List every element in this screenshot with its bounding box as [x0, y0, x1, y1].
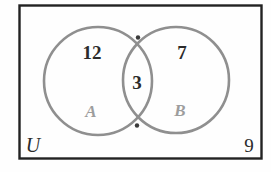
- venn-diagram-figure: 12 3 7 A B U 9: [0, 0, 271, 172]
- intersection-point-bottom: [135, 123, 139, 127]
- intersection-count: 3: [132, 73, 142, 92]
- set-a-only-count: 12: [83, 43, 102, 62]
- set-b-only-count: 7: [177, 43, 187, 62]
- intersection-point-top: [136, 35, 140, 39]
- set-b-label: B: [174, 102, 185, 119]
- set-a-label: A: [85, 103, 96, 120]
- outside-region-count: 9: [244, 136, 254, 155]
- universal-set-label: U: [26, 135, 40, 155]
